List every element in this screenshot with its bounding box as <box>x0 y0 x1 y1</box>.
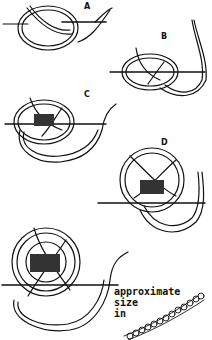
caption-line-3: in <box>114 308 180 319</box>
stage-label-a: A <box>84 2 90 11</box>
knot-stage-a <box>3 6 112 50</box>
size-caption: approximate size in <box>114 286 180 319</box>
caption-line-2: size <box>114 297 180 308</box>
stage-label-d: D <box>161 138 168 147</box>
stage-label-c: C <box>84 90 90 99</box>
caption-line-1: approximate <box>114 286 180 297</box>
knot-stage-e <box>2 228 128 331</box>
knot-stage-d <box>98 148 205 232</box>
stage-label-b: B <box>161 32 167 41</box>
knot-stage-c <box>5 98 116 162</box>
knot-stage-b <box>110 20 206 96</box>
